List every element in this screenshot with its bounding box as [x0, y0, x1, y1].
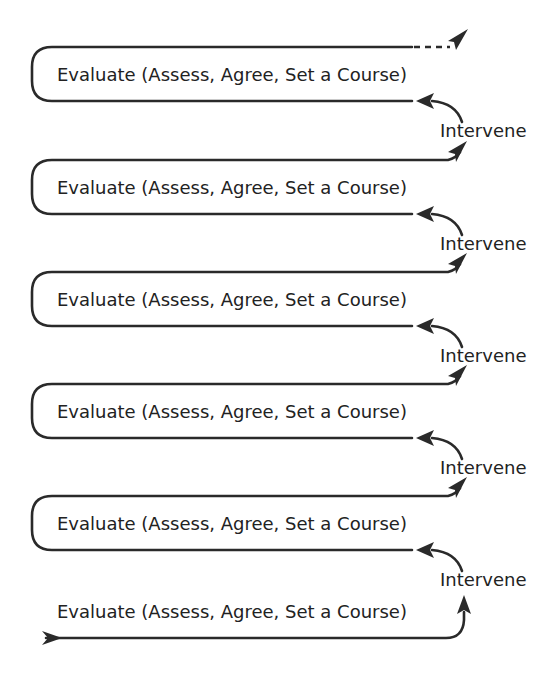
intervene-label: Intervene: [440, 233, 526, 254]
intervene-label: Intervene: [440, 345, 526, 366]
evaluate-label: Evaluate (Assess, Agree, Set a Course): [57, 401, 407, 422]
evaluate-label: Evaluate (Assess, Agree, Set a Course): [57, 64, 407, 85]
evaluate-loop-2: Evaluate (Assess, Agree, Set a Course): [32, 141, 467, 214]
intervene-connector-5: Intervene: [416, 542, 526, 590]
evaluate-loop-3: Evaluate (Assess, Agree, Set a Course): [32, 253, 467, 326]
intervene-label: Intervene: [440, 457, 526, 478]
evaluate-label: Evaluate (Assess, Agree, Set a Course): [57, 177, 407, 198]
evaluate-start: Evaluate (Assess, Agree, Set a Course): [42, 595, 471, 645]
evaluate-label: Evaluate (Assess, Agree, Set a Course): [57, 289, 407, 310]
evaluate-intervene-spiral-diagram: Evaluate (Assess, Agree, Set a Course) I…: [0, 0, 559, 681]
evaluate-loop-5: Evaluate (Assess, Agree, Set a Course): [32, 477, 467, 550]
evaluate-label: Evaluate (Assess, Agree, Set a Course): [57, 601, 407, 622]
intervene-connector-4: Intervene: [416, 430, 526, 478]
intervene-label: Intervene: [440, 120, 526, 141]
evaluate-loop-4: Evaluate (Assess, Agree, Set a Course): [32, 365, 467, 438]
evaluate-loop-1: Evaluate (Assess, Agree, Set a Course): [32, 29, 468, 101]
evaluate-label: Evaluate (Assess, Agree, Set a Course): [57, 513, 407, 534]
intervene-connector-3: Intervene: [416, 318, 526, 366]
arrowhead-icon: [448, 29, 468, 50]
intervene-label: Intervene: [440, 569, 526, 590]
intervene-connector-1: Intervene: [416, 93, 526, 141]
intervene-connector-2: Intervene: [416, 206, 526, 254]
